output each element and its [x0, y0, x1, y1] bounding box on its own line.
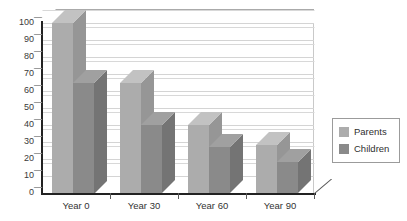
bar-children [73, 70, 94, 194]
y-tick-mark [34, 170, 43, 171]
bar-front-face [141, 125, 162, 193]
bar-parents [52, 10, 73, 193]
y-tick-label: 80 [4, 52, 34, 61]
legend-item: Children [339, 142, 399, 155]
x-tick-mark [178, 193, 179, 199]
x-tick-mark [314, 193, 315, 199]
bar-chart: 0102030405060708090100 Year 0Year 30Year… [0, 0, 407, 221]
x-tick-label: Year 90 [246, 201, 314, 211]
y-tick-mark [34, 119, 43, 120]
bar-parents [188, 112, 209, 193]
bar-parents [256, 132, 277, 193]
y-tick-mark [34, 51, 43, 52]
y-tick-label: 70 [4, 69, 34, 78]
bar-front-face [52, 23, 73, 193]
bar-children [141, 112, 162, 193]
y-tick-mark [34, 187, 43, 188]
x-tick-mark [110, 193, 111, 199]
bar-children [209, 134, 230, 193]
y-tick-label: 0 [4, 188, 34, 197]
y-tick-label: 40 [4, 120, 34, 129]
y-tick-mark [34, 136, 43, 137]
y-tick-label: 90 [4, 35, 34, 44]
bar-front-face [209, 147, 230, 193]
bar-children [277, 149, 298, 193]
bar-front-face [73, 83, 94, 194]
y-tick-label: 20 [4, 154, 34, 163]
legend-swatch-parents [339, 127, 349, 137]
y-tick-mark [34, 68, 43, 69]
x-tick-label: Year 30 [110, 201, 178, 211]
legend: Parents Children [332, 118, 400, 163]
legend-label-children: Children [354, 144, 389, 154]
bar-front-face [188, 125, 209, 193]
x-tick-mark [246, 193, 247, 199]
y-tick-label: 100 [4, 18, 34, 27]
bar-front-face [256, 145, 277, 193]
bar-front-face [120, 83, 141, 194]
bar-parents [120, 70, 141, 194]
y-tick-mark [34, 17, 43, 18]
y-tick-mark [34, 153, 43, 154]
y-axis-line [41, 21, 43, 195]
x-axis-depth-edge [314, 179, 334, 195]
x-tick-label: Year 0 [42, 201, 110, 211]
y-tick-label: 50 [4, 103, 34, 112]
y-tick-mark [34, 34, 43, 35]
y-tick-label: 30 [4, 137, 34, 146]
legend-swatch-children [339, 144, 349, 154]
y-tick-label: 10 [4, 171, 34, 180]
y-tick-label: 60 [4, 86, 34, 95]
legend-label-parents: Parents [354, 127, 387, 137]
y-tick-mark [34, 102, 43, 103]
bar-side-face [162, 112, 175, 193]
bar-side-face [94, 70, 107, 194]
bar-front-face [277, 162, 298, 193]
y-tick-mark [34, 85, 43, 86]
legend-item: Parents [339, 125, 399, 138]
x-tick-label: Year 60 [178, 201, 246, 211]
